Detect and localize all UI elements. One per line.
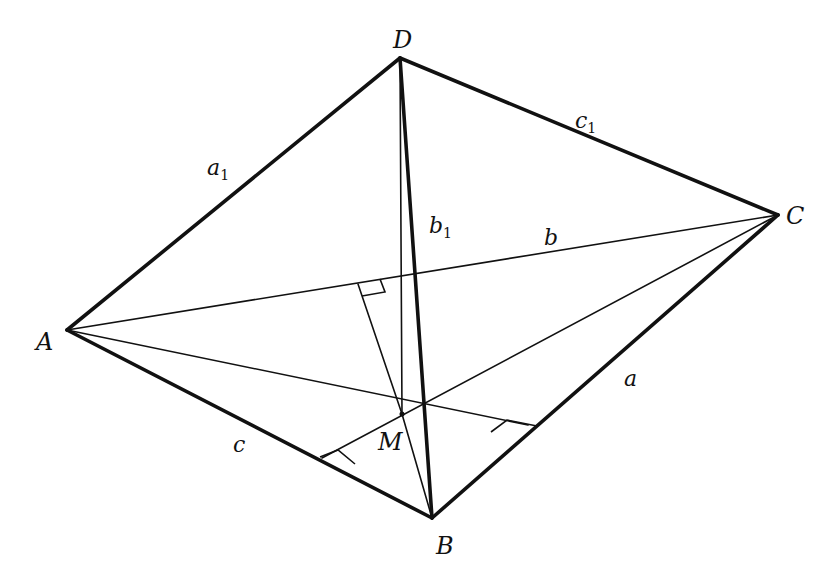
edge-label-c: c [233,432,245,457]
vertex-label-m: M [377,428,404,456]
vertex-label-d: D [392,26,412,54]
edge-label-c1: c1 [575,108,596,136]
edge-ad-a1 [67,58,400,330]
edge-label-b: b [544,225,558,250]
edge-dc-c1 [400,58,778,215]
vertex-label-b: B [435,532,454,560]
edge-label-a1: a1 [207,155,229,183]
edge-cb-a [432,215,778,518]
line-a-to-bc-foot [67,330,528,425]
edge-db-b1 [400,58,432,518]
vertex-label-c: C [786,202,804,230]
edge-label-b1: b1 [429,213,452,241]
tetrahedron-diagram: D C A B M a1 c1 b1 b a c [0,0,835,579]
edge-label-a: a [624,366,637,391]
point-m-dot [400,412,405,417]
edge-ab-c [67,330,432,518]
line-dm-height [400,58,402,414]
vertex-label-a: A [34,328,53,356]
